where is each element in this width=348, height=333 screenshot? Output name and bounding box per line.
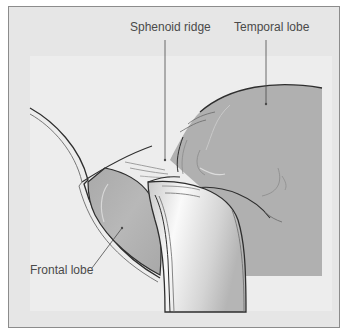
label-temporal-lobe: Temporal lobe	[234, 20, 309, 34]
label-frontal-lobe: Frontal lobe	[30, 263, 93, 277]
label-sphenoid-ridge: Sphenoid ridge	[130, 20, 211, 34]
brain-retraction-illustration	[0, 0, 348, 333]
